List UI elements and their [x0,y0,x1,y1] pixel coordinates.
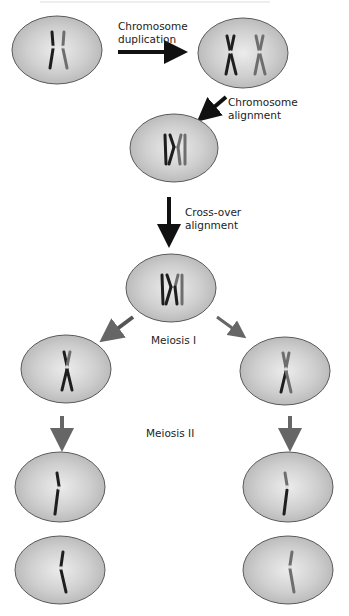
label-meiosis-2: Meiosis II [146,427,194,440]
meiosis1-left-cell [21,335,111,403]
label-line: duplication [118,33,188,46]
meiosis1-right-cell [240,337,330,405]
meiosis2-right-top-cell [243,452,333,522]
label-line: alignment [228,109,298,122]
crossover-cell [126,254,216,322]
label-chromosome-duplication: Chromosome duplication [118,20,188,46]
meiosis2-left-bottom-cell [15,536,105,604]
label-line: Cross-over [185,206,241,219]
duplicated-cell [198,18,288,88]
arrow-meiosis1-right [217,317,239,333]
label-chromosome-alignment: Chromosome alignment [228,96,298,122]
label-line: alignment [185,219,241,232]
aligned-cell [130,114,218,182]
parent-cell [12,16,102,84]
meiosis2-right-bottom-cell [243,536,333,604]
meiosis-diagram [0,0,349,616]
label-line: Chromosome [118,20,188,33]
meiosis2-left-top-cell [15,452,105,522]
label-crossover-alignment: Cross-over alignment [185,206,241,232]
label-meiosis-1: Meiosis I [151,334,196,347]
arrow-alignment [206,97,226,114]
arrow-meiosis1-left [109,317,133,335]
label-line: Chromosome [228,96,298,109]
